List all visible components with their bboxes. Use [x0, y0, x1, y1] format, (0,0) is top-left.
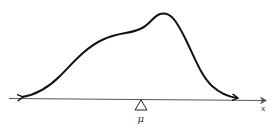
density-curve	[22, 13, 237, 98]
mu-label: μ	[138, 113, 145, 124]
x-axis-label: x	[261, 104, 266, 113]
density-diagram: μ x	[0, 0, 275, 130]
x-axis	[9, 99, 266, 101]
fulcrum-triangle	[135, 100, 147, 110]
